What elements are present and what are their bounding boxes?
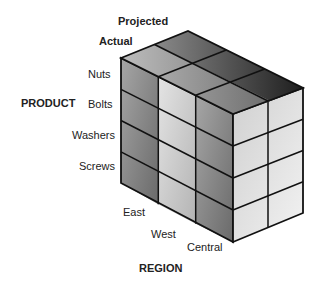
region-axis-title: REGION — [139, 262, 182, 274]
measure-label-actual: Actual — [99, 35, 133, 47]
product-label-bolts: Bolts — [88, 98, 112, 110]
right-face — [233, 88, 303, 242]
measure-label-projected: Projected — [118, 15, 168, 27]
region-label-east: East — [123, 206, 145, 218]
region-label-central: Central — [187, 241, 222, 253]
product-label-nuts: Nuts — [88, 68, 111, 80]
product-label-washers: Washers — [72, 129, 115, 141]
region-label-west: West — [151, 228, 176, 240]
product-label-screws: Screws — [79, 160, 115, 172]
product-axis-title: PRODUCT — [21, 97, 75, 109]
